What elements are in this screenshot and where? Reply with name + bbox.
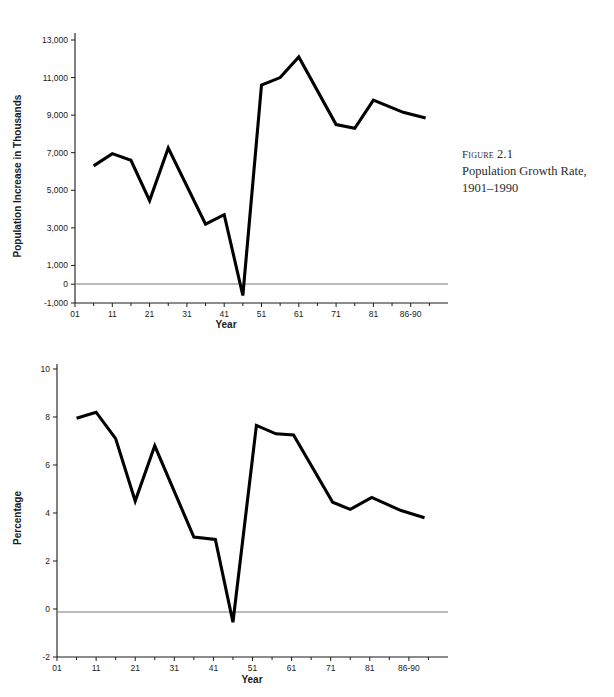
x-tick-label: 81	[369, 309, 379, 319]
x-tick-label: 51	[248, 663, 258, 673]
y-tick-label: 0	[63, 279, 68, 289]
x-tick-label: 11	[108, 309, 117, 319]
x-tick-label: 86-90	[400, 309, 422, 319]
x-tick-label: 01	[70, 309, 80, 319]
chart2-data-line	[77, 412, 425, 622]
x-tick-label: 51	[257, 309, 267, 319]
x-tick-label: 61	[287, 663, 297, 673]
figure-2-1-label: Figure 2.1	[462, 146, 612, 163]
x-tick-label: 81	[365, 663, 375, 673]
chart2-y-tick-group: -20246810	[41, 364, 57, 662]
chart1-data-line	[94, 57, 426, 296]
y-tick-label: -2	[42, 652, 50, 662]
x-tick-label: 31	[182, 309, 192, 319]
x-tick-label: 11	[92, 663, 101, 673]
x-tick-label: 71	[326, 663, 336, 673]
figure-2-1-caption-line-2: 1901–1990	[462, 180, 612, 197]
figure-2-1-label-word: Figure	[462, 148, 494, 160]
y-tick-label: 5,000	[47, 185, 69, 195]
chart1-x-axis-title: Year	[215, 319, 236, 330]
chart2-y-axis-title: Percentage	[12, 491, 23, 545]
y-tick-label: 8	[45, 412, 50, 422]
x-tick-label: 01	[52, 663, 62, 673]
figure-2-1-label-number: 2.1	[497, 147, 513, 161]
chart2-x-tick-group: 01112131415161718186-90	[52, 657, 428, 673]
y-tick-label: 3,000	[47, 223, 69, 233]
y-tick-label: 7,000	[47, 148, 69, 158]
y-tick-label: 1,000	[47, 260, 69, 270]
x-tick-label: 86-90	[398, 663, 420, 673]
x-tick-label: 21	[145, 309, 155, 319]
y-tick-label: 2	[45, 556, 50, 566]
y-tick-label: 6	[45, 460, 50, 470]
x-tick-label: 41	[219, 309, 229, 319]
chart2-x-axis-title: Year	[241, 674, 262, 685]
chart1-y-axis-title: Population Increase in Thousands	[12, 94, 23, 257]
y-tick-label: -1,000	[44, 298, 68, 308]
x-tick-label: 41	[209, 663, 219, 673]
x-tick-label: 21	[130, 663, 140, 673]
figure-2-1-caption: Figure 2.1 Population Growth Rate, 1901–…	[462, 146, 612, 197]
y-tick-label: 11,000	[43, 73, 69, 83]
figure-2-1-block: Population Increase in Thousands -1,0000…	[0, 0, 614, 350]
y-tick-label: 0	[45, 604, 50, 614]
x-tick-label: 71	[331, 309, 341, 319]
population-growth-rate-chart: Population Increase in Thousands -1,0000…	[0, 0, 460, 350]
figure-2-2-block: Percentage -20246810 0111213141516171818…	[0, 350, 614, 697]
chart1-y-tick-group: -1,00001,0003,0005,0007,0009,00011,00013…	[42, 35, 75, 308]
percentage-increase-chart: Percentage -20246810 0111213141516171818…	[0, 350, 460, 697]
y-tick-label: 4	[45, 508, 50, 518]
y-tick-label: 10	[41, 364, 51, 374]
y-tick-label: 9,000	[47, 110, 69, 120]
x-tick-label: 61	[294, 309, 304, 319]
figure-2-1-caption-line-1: Population Growth Rate,	[462, 163, 612, 180]
x-tick-label: 31	[170, 663, 180, 673]
chart1-x-tick-group: 01112131415161718186-90	[70, 303, 429, 319]
y-tick-label: 13,000	[42, 35, 68, 45]
